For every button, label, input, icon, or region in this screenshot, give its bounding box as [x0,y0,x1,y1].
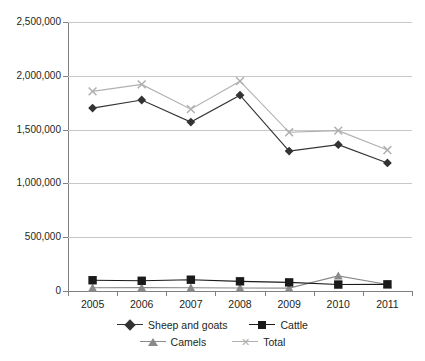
diamond-marker-icon [117,319,143,331]
triangle-marker-icon [140,336,166,348]
y-tick-mark [63,237,68,238]
data-point-marker [187,276,195,284]
x-marker-icon: ✕ [232,336,258,348]
data-point-marker [334,280,342,288]
legend-item-total: ✕ Total [232,336,285,348]
data-point-marker [137,96,146,105]
legend-item-camels: Camels [140,336,207,348]
series-layer [0,0,425,361]
y-tick-mark [63,291,68,292]
legend-row-top: Sheep and goats Cattle [0,316,425,333]
data-point-marker [138,277,146,285]
series-sheep-and-goats [88,91,392,168]
livestock-line-chart: 2,500,0002,000,0001,500,0001,000,000500,… [0,0,425,361]
series-total [89,77,392,154]
data-point-marker [88,276,96,284]
data-point-marker [236,77,244,85]
square-marker-icon [249,319,275,331]
series-line [93,95,388,163]
legend-label-camels: Camels [171,336,207,348]
legend-label-cattle: Cattle [280,319,307,331]
data-point-marker [334,272,343,280]
data-point-marker [383,159,392,168]
data-point-marker [285,278,293,286]
chart-legend: Sheep and goats Cattle Camels [0,316,425,350]
legend-item-sheep-and-goats: Sheep and goats [117,319,227,331]
data-point-marker [88,104,97,113]
y-tick-mark [63,76,68,77]
legend-row-bottom: Camels ✕ Total [0,333,425,350]
y-tick-mark [63,183,68,184]
y-tick-mark [63,22,68,23]
data-point-marker [236,277,244,285]
data-point-marker [384,146,392,154]
legend-item-cattle: Cattle [249,319,307,331]
legend-label-sheep-and-goats: Sheep and goats [148,319,227,331]
data-point-marker [186,118,195,127]
legend-label-total: Total [263,336,285,348]
data-point-marker [334,140,343,149]
data-point-marker [383,280,391,288]
data-point-marker [187,105,195,113]
y-tick-mark [63,130,68,131]
